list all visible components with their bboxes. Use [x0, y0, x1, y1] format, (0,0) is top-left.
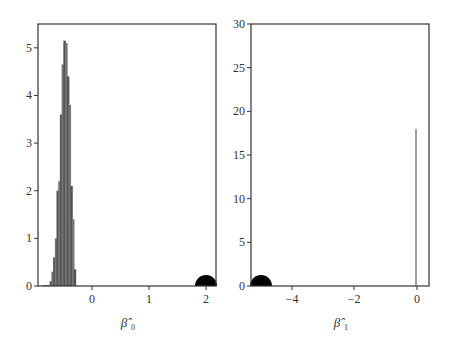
x-tick-label: 0	[414, 292, 420, 306]
x-axis-label-subscript: 0	[131, 323, 135, 332]
y-tick-label: 5	[239, 235, 245, 249]
histogram-bar	[415, 129, 417, 286]
y-tick-label: 0	[26, 279, 32, 293]
y-tick-label: 1	[26, 231, 32, 245]
chart-canvas: 012012345β̂0−4−20051015202530β̂1	[0, 0, 451, 343]
x-tick-label: 2	[203, 292, 209, 306]
y-tick-label: 4	[26, 88, 32, 102]
x-tick-label: −2	[348, 292, 361, 306]
panel-beta1: −4−20051015202530β̂1	[233, 17, 429, 332]
y-tick-label: 0	[239, 279, 245, 293]
true-value-marker	[195, 275, 217, 286]
histogram-bar	[74, 269, 77, 286]
y-tick-label: 2	[26, 184, 32, 198]
axes-frame	[251, 24, 429, 286]
y-tick-label: 3	[26, 136, 32, 150]
x-tick-label: 0	[89, 292, 95, 306]
x-axis-label-subscript: 1	[344, 323, 348, 332]
y-tick-label: 10	[233, 192, 245, 206]
x-tick-label: −4	[286, 292, 299, 306]
y-tick-label: 15	[233, 148, 245, 162]
y-tick-label: 25	[233, 61, 245, 75]
true-value-marker	[250, 275, 272, 286]
x-tick-label: 1	[146, 292, 152, 306]
y-tick-label: 5	[26, 41, 32, 55]
y-tick-label: 30	[233, 17, 245, 31]
panel-beta0: 012012345β̂0	[26, 24, 217, 332]
y-tick-label: 20	[233, 104, 245, 118]
